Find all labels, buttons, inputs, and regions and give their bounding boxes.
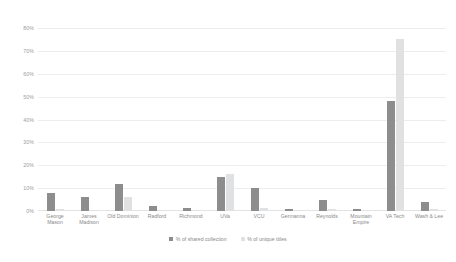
bar-unique[interactable]	[396, 39, 404, 211]
legend-item[interactable]: % of unique titles	[241, 236, 287, 242]
bar-group	[242, 28, 276, 211]
bar-group	[140, 28, 174, 211]
bar-shared[interactable]	[319, 200, 327, 211]
bar-unique[interactable]	[328, 209, 336, 211]
bar-unique[interactable]	[430, 209, 438, 211]
bar-shared[interactable]	[47, 193, 55, 211]
bar-group	[208, 28, 242, 211]
bar-unique[interactable]	[124, 197, 132, 211]
bar-group	[412, 28, 446, 211]
bar-group	[310, 28, 344, 211]
bar-shared[interactable]	[421, 202, 429, 211]
bar-unique[interactable]	[90, 210, 98, 211]
y-tick-label: 50%	[2, 94, 34, 100]
bar-unique[interactable]	[158, 210, 166, 211]
bar-group	[378, 28, 412, 211]
legend-swatch-icon	[169, 237, 173, 241]
legend-label: % of shared collection	[176, 236, 227, 242]
bar-unique[interactable]	[362, 210, 370, 211]
legend-swatch-icon	[241, 237, 245, 241]
y-tick-label: 30%	[2, 139, 34, 145]
bar-shared[interactable]	[183, 208, 191, 211]
y-tick-label: 10%	[2, 185, 34, 191]
bar-group	[72, 28, 106, 211]
bar-shared[interactable]	[217, 177, 225, 211]
legend-item[interactable]: % of shared collection	[169, 236, 226, 242]
y-tick-label: 70%	[2, 48, 34, 54]
bar-shared[interactable]	[81, 197, 89, 211]
y-tick-label: 80%	[2, 25, 34, 31]
legend-label: % of unique titles	[247, 236, 287, 242]
bar-unique[interactable]	[192, 210, 200, 211]
bar-shared[interactable]	[115, 184, 123, 211]
chart-legend: % of shared collection% of unique titles	[0, 236, 456, 242]
bar-group	[276, 28, 310, 211]
bar-unique[interactable]	[56, 209, 64, 211]
y-tick-label: 60%	[2, 71, 34, 77]
y-tick-label: 0%	[2, 208, 34, 214]
bar-shared[interactable]	[251, 188, 259, 211]
y-axis: 0%10%20%30%40%50%60%70%80%	[0, 28, 34, 211]
y-tick-label: 20%	[2, 162, 34, 168]
bar-shared[interactable]	[149, 206, 157, 211]
bar-group	[38, 28, 72, 211]
bar-shared[interactable]	[353, 209, 361, 211]
y-tick-label: 40%	[2, 117, 34, 123]
bars-layer	[38, 28, 446, 211]
bar-group	[174, 28, 208, 211]
bar-unique[interactable]	[260, 208, 268, 211]
bar-group	[106, 28, 140, 211]
bar-group	[344, 28, 378, 211]
bar-chart: 0%10%20%30%40%50%60%70%80% George MasonJ…	[0, 0, 456, 262]
bar-shared[interactable]	[285, 209, 293, 211]
bar-shared[interactable]	[387, 101, 395, 211]
bar-unique[interactable]	[226, 174, 234, 211]
bar-unique[interactable]	[294, 210, 302, 211]
